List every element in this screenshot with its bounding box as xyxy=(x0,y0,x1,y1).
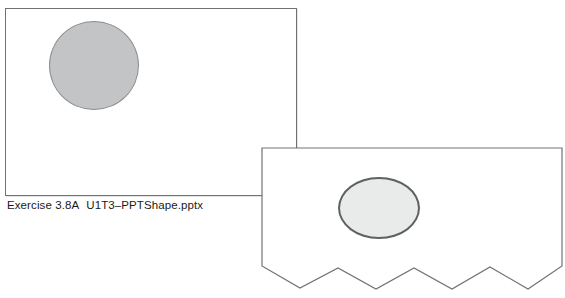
caption-exercise-label: Exercise 3.8A xyxy=(7,199,79,211)
figure-canvas: Exercise 3.8AU1T3–PPTShape.pptx xyxy=(0,0,565,298)
slide-original xyxy=(5,8,297,196)
figure-caption: Exercise 3.8AU1T3–PPTShape.pptx xyxy=(7,199,203,211)
circle-shape xyxy=(49,21,139,110)
oval-shape xyxy=(338,177,420,239)
slide-modified xyxy=(262,148,562,294)
caption-file-name: U1T3–PPTShape.pptx xyxy=(86,199,203,211)
